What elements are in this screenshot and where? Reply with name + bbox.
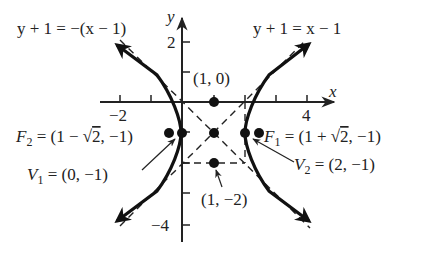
- y-tick-label-neg4: −4: [151, 216, 170, 235]
- label-vertex-2: V2 = (2, −1): [294, 155, 375, 177]
- label-vertex-1: V1 = (0, −1): [27, 165, 108, 187]
- label-focus-1: F1 = (1 + √2, −1): [263, 127, 381, 149]
- hyperbola-right-branch: [245, 44, 309, 133]
- point-top-of-box: [209, 97, 219, 107]
- point-vertex-1: [177, 128, 187, 138]
- label-focus-2: F2 = (1 − √2, −1): [15, 127, 133, 149]
- y-axis-label: y: [165, 7, 175, 26]
- hyperbola-figure: x y −2 4 2 −4 y + 1 = −(x − 1) y + 1 = x…: [0, 0, 421, 257]
- x-axis-label: x: [328, 82, 337, 101]
- point-center: [209, 128, 219, 138]
- point-focus-2: [164, 128, 174, 138]
- asymptote-label-negative: y + 1 = −(x − 1): [17, 19, 126, 38]
- label-bottom-of-box: (1, −2): [201, 190, 247, 209]
- hyperbola-left-branch-lower: [117, 133, 181, 221]
- y-tick-label-2: 2: [167, 33, 176, 52]
- pointer-bottom-of-box: [216, 170, 222, 187]
- point-bottom-of-box: [209, 158, 219, 168]
- x-tick-label-neg2: −2: [109, 106, 127, 125]
- label-top-of-box: (1, 0): [193, 69, 230, 88]
- point-focus-1: [254, 128, 264, 138]
- asymptote-label-positive: y + 1 = x − 1: [253, 19, 341, 38]
- point-vertex-2: [240, 128, 250, 138]
- pointer-vertex-1: [142, 139, 175, 170]
- x-tick-label-4: 4: [302, 106, 311, 125]
